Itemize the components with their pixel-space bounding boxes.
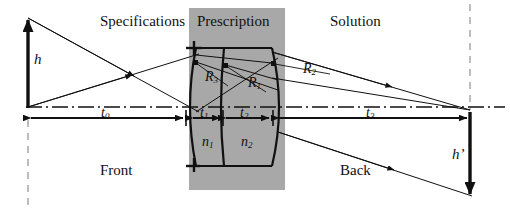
t0-sub: 0 [105,111,110,121]
t2-sub: 2 [244,111,249,121]
radius-label-R3: R3 [205,70,218,85]
optical-ray-diagram: Specifications Prescription Solution Fro… [0,0,510,214]
object-height-label: h [34,52,42,67]
R1-base: R [248,75,257,90]
n1-sub: 1 [209,140,214,150]
ray-image-exit-arrow [278,132,394,170]
region-label-prescription: Prescription [197,14,270,29]
prescription-region-box [189,8,285,190]
incident-rays-group [28,18,199,112]
image-height-letter: h [452,146,460,162]
radius-label-R2: R2 [303,62,316,77]
image-height-prime: ’ [460,146,465,162]
n2-base: n [241,134,248,149]
distance-label-t0: t0 [101,106,109,121]
distance-label-t2: t2 [240,106,248,121]
exit-rays-group [272,52,472,196]
t3-sub: 3 [370,111,375,121]
R3-sub: 3 [214,75,219,85]
R1-tick [223,63,228,68]
t1-sub: 1 [204,111,209,121]
region-label-specifications: Specifications [100,14,185,29]
ray-upper-exit-arrow [272,52,392,87]
ray-lower-incident-arrow [28,75,132,107]
index-label-n1: n1 [202,135,214,150]
region-label-front: Front [100,163,133,178]
R2-base: R [303,61,312,76]
n1-base: n [202,134,209,149]
R1-sub: 1 [257,81,262,91]
distance-label-t3: t3 [366,106,374,121]
radius-label-R1: R1 [248,76,261,91]
R3-base: R [205,69,214,84]
distance-label-t1: t1 [200,106,208,121]
region-label-solution: Solution [330,14,381,29]
image-height-label: h’ [452,147,465,162]
region-label-back: Back [340,163,371,178]
index-label-n2: n2 [241,135,253,150]
R2-sub: 2 [312,67,317,77]
n2-sub: 2 [248,140,253,150]
diagram-canvas [0,0,510,214]
